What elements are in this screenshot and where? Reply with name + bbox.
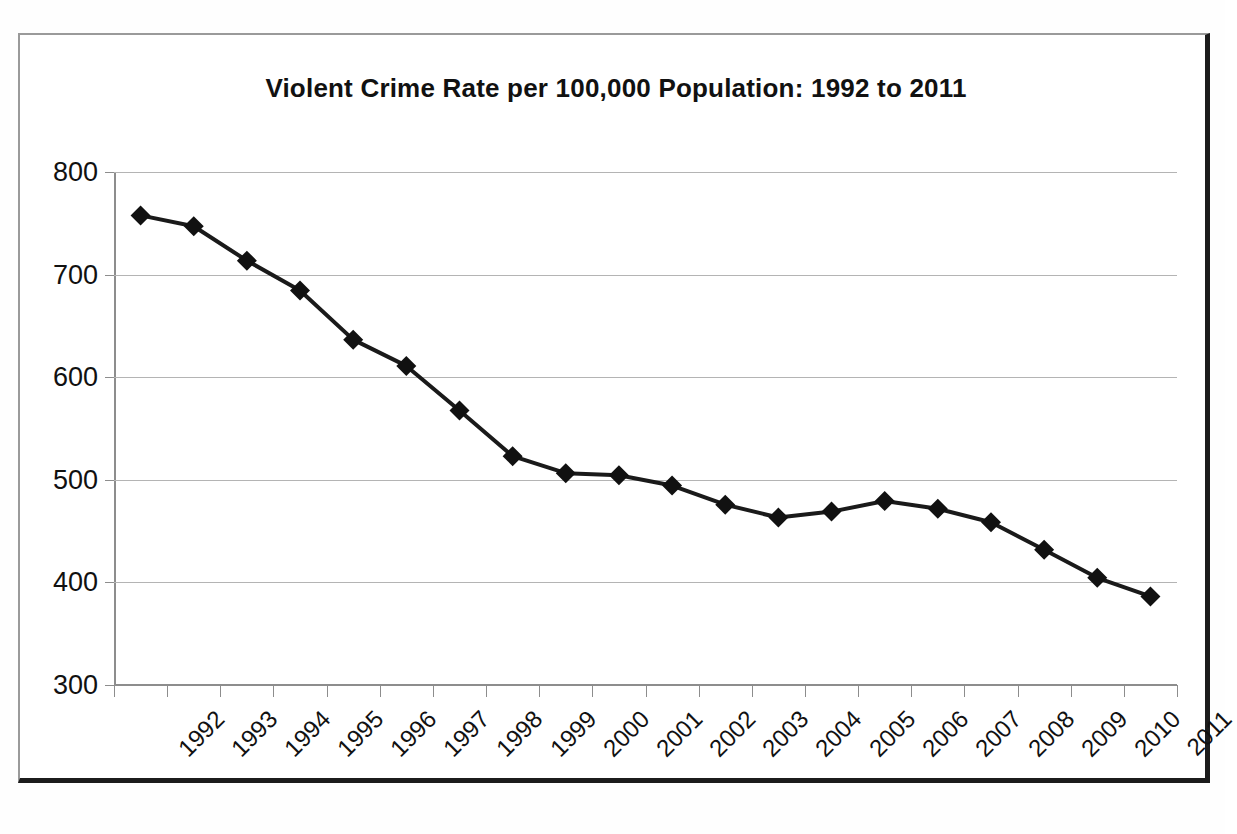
x-axis-label-1996: 1996	[385, 705, 443, 763]
plot-area: 300400500600700800 199219931994199519961…	[114, 172, 1177, 685]
x-tick-12	[752, 685, 753, 697]
x-axis-label-2000: 2000	[597, 705, 655, 763]
data-point-2008	[981, 512, 1001, 532]
data-point-1994	[237, 251, 257, 271]
x-tick-10	[646, 685, 647, 697]
x-axis-label-2005: 2005	[863, 705, 921, 763]
x-axis-label-1994: 1994	[279, 705, 337, 763]
x-axis-label-1995: 1995	[332, 705, 390, 763]
y-axis-label-700: 700	[53, 259, 98, 290]
x-tick-7	[486, 685, 487, 697]
x-axis-label-1993: 1993	[225, 705, 283, 763]
data-point-2006	[875, 491, 895, 511]
x-tick-5	[380, 685, 381, 697]
data-point-2004	[768, 508, 788, 528]
y-tick-500	[105, 480, 114, 481]
data-point-2010	[1087, 568, 1107, 588]
x-tick-11	[699, 685, 700, 697]
data-point-2000	[556, 463, 576, 483]
data-point-2011	[1140, 586, 1160, 606]
x-tick-18	[1071, 685, 1072, 697]
x-tick-0	[114, 685, 115, 697]
data-point-2009	[1034, 540, 1054, 560]
data-point-1993	[184, 216, 204, 236]
x-tick-14	[858, 685, 859, 697]
y-tick-400	[105, 582, 114, 583]
series-line-violent-crime-rate	[114, 172, 1177, 685]
x-tick-6	[433, 685, 434, 697]
chart-frame: Violent Crime Rate per 100,000 Populatio…	[18, 33, 1210, 783]
x-tick-8	[539, 685, 540, 697]
x-tick-19	[1124, 685, 1125, 697]
x-tick-17	[1018, 685, 1019, 697]
x-axis-label-2002: 2002	[704, 705, 762, 763]
x-axis-label-1998: 1998	[491, 705, 549, 763]
x-axis-label-2011: 2011	[1182, 705, 1237, 761]
x-axis-label-2001: 2001	[651, 705, 709, 763]
y-tick-600	[105, 377, 114, 378]
x-axis-label-2006: 2006	[916, 705, 974, 763]
x-axis-label-2003: 2003	[757, 705, 815, 763]
y-tick-300	[105, 685, 114, 686]
y-axis-label-400: 400	[53, 567, 98, 598]
x-tick-15	[911, 685, 912, 697]
y-tick-700	[105, 275, 114, 276]
x-tick-16	[964, 685, 965, 697]
x-tick-9	[592, 685, 593, 697]
y-axis-label-500: 500	[53, 464, 98, 495]
x-axis-label-1997: 1997	[438, 705, 496, 763]
data-point-2002	[662, 476, 682, 496]
y-axis-label-600: 600	[53, 362, 98, 393]
x-axis-label-2008: 2008	[1023, 705, 1081, 763]
data-point-2005	[822, 502, 842, 522]
series-markers	[131, 205, 1161, 606]
x-tick-13	[805, 685, 806, 697]
chart-title: Violent Crime Rate per 100,000 Populatio…	[20, 73, 1212, 104]
y-tick-800	[105, 172, 114, 173]
series-polyline	[141, 215, 1151, 596]
x-axis-label-1992: 1992	[172, 705, 230, 763]
data-point-2007	[928, 499, 948, 519]
y-axis-label-800: 800	[53, 157, 98, 188]
y-axis-label-300: 300	[53, 670, 98, 701]
x-tick-20	[1177, 685, 1178, 697]
data-point-1992	[131, 205, 151, 225]
x-axis-label-2004: 2004	[810, 705, 868, 763]
x-axis-label-2009: 2009	[1076, 705, 1134, 763]
data-point-2003	[715, 495, 735, 515]
x-axis-label-1999: 1999	[544, 705, 602, 763]
x-axis-label-2010: 2010	[1129, 705, 1187, 763]
x-tick-2	[220, 685, 221, 697]
x-tick-3	[273, 685, 274, 697]
x-tick-1	[167, 685, 168, 697]
x-axis-label-2007: 2007	[969, 705, 1027, 763]
x-tick-4	[327, 685, 328, 697]
data-point-2001	[609, 465, 629, 485]
